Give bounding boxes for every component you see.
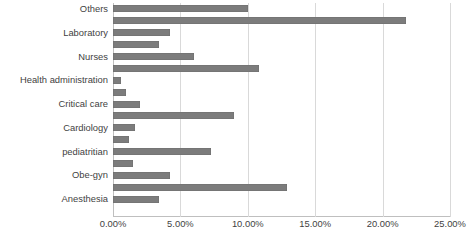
x-axis-tick-label: 20.00% — [367, 219, 399, 228]
x-axis-tick-label: 15.00% — [299, 219, 331, 228]
bar-row — [113, 134, 450, 146]
y-axis-label: Laboratory — [63, 28, 108, 37]
bar — [113, 124, 135, 131]
y-axis-label: Obe-gyn — [72, 171, 108, 180]
y-axis-label: Critical care — [59, 99, 109, 108]
x-axis-tick-label: 0.00% — [100, 219, 127, 228]
bar — [113, 5, 248, 12]
bar-row — [113, 169, 450, 181]
bar-row — [113, 27, 450, 39]
bar-row — [113, 158, 450, 170]
y-axis-label: Cardiology — [63, 123, 108, 132]
bar-row — [113, 110, 450, 122]
bar-chart: OthersLaboratoryNursesHealth administrat… — [0, 0, 472, 247]
gridline — [450, 3, 451, 217]
bar-row — [113, 15, 450, 27]
x-axis-tick-labels: 0.00%5.00%10.00%15.00%20.00%25.00% — [0, 219, 472, 235]
bar-row — [113, 3, 450, 15]
bar — [113, 101, 140, 108]
bar — [113, 41, 159, 48]
bar-row — [113, 122, 450, 134]
bar-row — [113, 205, 450, 217]
bar — [113, 148, 211, 155]
bar-row — [113, 181, 450, 193]
bar — [113, 112, 234, 119]
bar — [113, 89, 126, 96]
bar — [113, 136, 129, 143]
bar — [113, 29, 170, 36]
bar — [113, 53, 194, 60]
x-axis-tick-label: 10.00% — [232, 219, 264, 228]
bar-row — [113, 86, 450, 98]
y-axis-label: Anesthesia — [62, 194, 108, 203]
bar — [113, 184, 287, 191]
bar — [113, 196, 159, 203]
bar-row — [113, 62, 450, 74]
bar-row — [113, 39, 450, 51]
y-axis-label: Others — [80, 4, 108, 13]
y-axis-label: Nurses — [78, 52, 108, 61]
plot-area — [113, 3, 450, 217]
y-axis-label: pediatritian — [62, 147, 108, 156]
bar-row — [113, 74, 450, 86]
bar — [113, 77, 121, 84]
x-axis-tick-label: 25.00% — [434, 219, 466, 228]
bar — [113, 65, 259, 72]
bar — [113, 17, 406, 24]
bar-row — [113, 146, 450, 158]
x-axis-tick-label: 5.00% — [167, 219, 194, 228]
bar-row — [113, 51, 450, 63]
bar-row — [113, 193, 450, 205]
y-axis-label: Health administration — [20, 76, 108, 85]
bar-row — [113, 98, 450, 110]
bar — [113, 172, 170, 179]
y-axis-category-labels: OthersLaboratoryNursesHealth administrat… — [0, 3, 108, 217]
bar — [113, 160, 133, 167]
